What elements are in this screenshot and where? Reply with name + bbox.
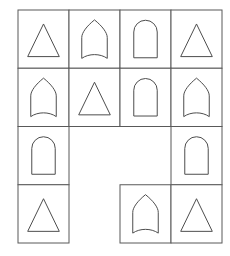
matrix-canvas [0,0,230,256]
shape-matrix-figure [0,0,230,256]
round-arch-r1c3 [134,20,157,58]
round-arch-r2c3 [134,79,157,117]
round-arch-r3c4 [185,137,208,175]
round-arch-r3c1 [32,137,55,175]
